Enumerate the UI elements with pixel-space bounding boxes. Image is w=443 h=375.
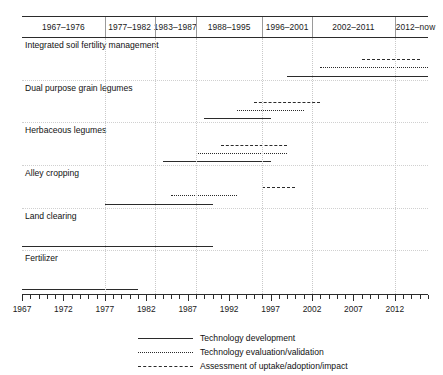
x-axis-minor-tick — [121, 295, 122, 299]
row-label: Land clearing — [25, 211, 77, 221]
x-axis-minor-tick — [337, 295, 338, 299]
x-axis-minor-tick — [362, 295, 363, 299]
period-column-label: 1996–2001 — [262, 17, 312, 37]
row-label: Alley cropping — [25, 168, 79, 178]
x-axis-major-tick — [63, 295, 64, 301]
x-axis-minor-tick — [179, 295, 180, 299]
x-axis-major-tick — [188, 295, 189, 301]
row-label: Dual purpose grain legumes — [25, 83, 133, 93]
x-axis-minor-tick — [279, 295, 280, 299]
category-rows: Integrated soil fertility managementDual… — [22, 38, 428, 294]
x-axis-minor-tick — [246, 295, 247, 299]
timeline-chart: 1967–19761977–19821983–19871988–19951996… — [0, 0, 443, 375]
x-axis-tick-label: 2012 — [386, 304, 405, 314]
period-column-label: 1977–1982 — [105, 17, 155, 37]
timeline-bar-dotted — [171, 195, 237, 196]
timeline-bar-solid — [163, 161, 271, 162]
column-gridline — [155, 38, 156, 294]
x-axis-minor-tick — [163, 295, 164, 299]
x-axis-tick-label: 2007 — [344, 304, 363, 314]
x-axis-major-tick — [105, 295, 106, 301]
x-axis-major-tick — [146, 295, 147, 301]
period-header-row: 1967–19761977–19821983–19871988–19951996… — [22, 16, 428, 38]
x-axis-minor-tick — [411, 295, 412, 299]
timeline-bar-dotted — [237, 110, 303, 111]
x-axis-minor-tick — [221, 295, 222, 299]
timeline-bar-solid — [287, 76, 428, 77]
x-axis-minor-tick — [196, 295, 197, 299]
legend-swatch-dotted — [138, 352, 193, 353]
period-column-divider — [312, 17, 313, 37]
x-axis-minor-tick — [370, 295, 371, 299]
x-axis-minor-tick — [39, 295, 40, 299]
x-axis-minor-tick — [213, 295, 214, 299]
x-axis-minor-tick — [378, 295, 379, 299]
timeline-row: Herbaceous legumes — [22, 123, 428, 166]
legend-label: Technology evaluation/validation — [200, 347, 324, 357]
x-axis-minor-tick — [97, 295, 98, 299]
period-column-label: 1967–1976 — [22, 17, 105, 37]
period-column-label: 1983–1987 — [155, 17, 196, 37]
timeline-bar-dashed — [262, 187, 295, 188]
timeline-row: Fertilizer — [22, 251, 428, 294]
x-axis-minor-tick — [262, 295, 263, 299]
x-axis-minor-tick — [204, 295, 205, 299]
x-axis-minor-tick — [403, 295, 404, 299]
period-column-divider — [262, 17, 263, 37]
legend-label: Technology development — [200, 333, 295, 343]
x-axis-minor-tick — [329, 295, 330, 299]
timeline-bar-solid — [204, 118, 270, 119]
x-axis-minor-tick — [47, 295, 48, 299]
timeline-row: Integrated soil fertility management — [22, 38, 428, 81]
x-axis-minor-tick — [295, 295, 296, 299]
x-axis-minor-tick — [130, 295, 131, 299]
x-axis-tick-label: 1967 — [13, 304, 32, 314]
x-axis-minor-tick — [80, 295, 81, 299]
legend-swatch-solid — [138, 338, 193, 339]
x-axis-minor-tick — [237, 295, 238, 299]
legend-item: Technology development — [138, 331, 438, 345]
legend-swatch-dashed — [138, 366, 193, 367]
x-axis-minor-tick — [428, 295, 429, 299]
timeline-bar-dashed — [221, 145, 287, 146]
x-axis-minor-tick — [387, 295, 388, 299]
row-label: Fertilizer — [25, 253, 58, 263]
x-axis-minor-tick — [138, 295, 139, 299]
x-axis-tick-label: 1997 — [261, 304, 280, 314]
x-axis-minor-tick — [30, 295, 31, 299]
x-axis-major-tick — [229, 295, 230, 301]
x-axis-minor-tick — [171, 295, 172, 299]
chart-legend: Technology developmentTechnology evaluat… — [138, 331, 438, 373]
x-axis-tick-label: 1982 — [137, 304, 156, 314]
x-axis-major-tick — [353, 295, 354, 301]
column-gridline — [395, 38, 396, 294]
column-gridline — [105, 38, 106, 294]
x-axis-minor-tick — [320, 295, 321, 299]
timeline-row: Alley cropping — [22, 166, 428, 209]
x-axis-minor-tick — [72, 295, 73, 299]
period-column-label: 2002–2011 — [312, 17, 395, 37]
x-axis-tick-label: 1992 — [220, 304, 239, 314]
x-axis-tick-label: 1987 — [178, 304, 197, 314]
row-label: Herbaceous legumes — [25, 125, 106, 135]
x-axis-minor-tick — [287, 295, 288, 299]
x-axis-minor-tick — [155, 295, 156, 299]
column-gridline — [312, 38, 313, 294]
legend-item: Technology evaluation/validation — [138, 345, 438, 359]
period-column-label: 1988–1995 — [196, 17, 262, 37]
x-axis-minor-tick — [55, 295, 56, 299]
x-axis-major-tick — [271, 295, 272, 301]
x-axis-tick-label: 2002 — [303, 304, 322, 314]
x-axis-minor-tick — [345, 295, 346, 299]
x-axis-tick-label: 1977 — [96, 304, 115, 314]
x-axis: 1967197219771982198719921997200220072012 — [22, 294, 428, 303]
timeline-row: Land clearing — [22, 209, 428, 252]
period-column-divider — [196, 17, 197, 37]
x-axis-minor-tick — [88, 295, 89, 299]
timeline-bar-solid — [22, 246, 213, 247]
plot-area: 1967–19761977–19821983–19871988–19951996… — [22, 16, 428, 294]
legend-label: Assessment of uptake/adoption/impact — [200, 361, 348, 371]
x-axis-minor-tick — [304, 295, 305, 299]
period-column-divider — [105, 17, 106, 37]
column-gridline — [196, 38, 197, 294]
